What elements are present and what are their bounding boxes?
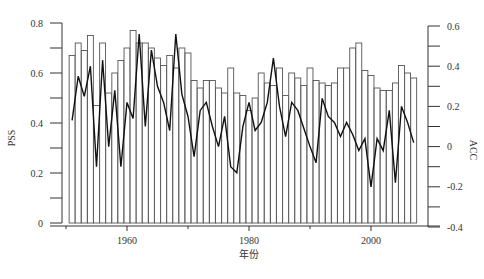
- y-axis-left-title: PSS: [6, 130, 17, 147]
- pss-bar: [295, 78, 301, 223]
- pss-bar: [209, 81, 215, 224]
- pss-bar: [301, 86, 307, 224]
- pss-bar: [368, 76, 374, 224]
- y-left-tick-label: 0.4: [31, 118, 44, 129]
- pss-bar: [124, 48, 130, 223]
- pss-bar: [258, 73, 264, 223]
- x-tick-label: 1960: [117, 235, 137, 246]
- y-right-tick-label: 0.6: [447, 21, 460, 32]
- pss-bar: [246, 111, 252, 224]
- pss-bar: [344, 68, 350, 223]
- pss-bar: [142, 43, 148, 223]
- pss-bar: [185, 53, 191, 223]
- pss-bar: [356, 43, 362, 223]
- pss-bar: [362, 71, 368, 224]
- pss-bar: [283, 96, 289, 224]
- pss-bar: [216, 88, 222, 223]
- pss-bar: [69, 56, 75, 224]
- y-right-tick-label: -0.2: [447, 181, 463, 192]
- y-right-tick-label: -0.4: [447, 222, 463, 233]
- pss-bar: [252, 98, 258, 223]
- pss-bar: [399, 66, 405, 224]
- pss-bar: [289, 73, 295, 223]
- pss-bar: [240, 96, 246, 224]
- y-axis-right-title: ACC: [468, 140, 479, 161]
- x-tick-label: 1980: [239, 235, 259, 246]
- pss-bar: [167, 56, 173, 224]
- pss-bar: [173, 68, 179, 223]
- pss-bar: [161, 66, 167, 224]
- pss-bar: [331, 83, 337, 223]
- pss-bar: [81, 51, 87, 224]
- y-left-tick-label: 0.6: [31, 68, 44, 79]
- pss-bar: [130, 31, 136, 224]
- x-axis-title: 年份: [239, 248, 259, 260]
- y-left-tick-label: 0.2: [31, 168, 44, 179]
- pss-bar: [405, 73, 411, 223]
- pss-bar: [313, 81, 319, 224]
- pss-bar: [411, 78, 417, 223]
- pss-bar: [380, 91, 386, 224]
- pss-bar: [270, 86, 276, 224]
- y-right-tick-label: 0: [447, 141, 452, 152]
- chart: 00.20.40.60.8 -0.4-0.200.20.40.6 1960198…: [0, 0, 484, 279]
- y-left-tick-label: 0.8: [31, 18, 44, 29]
- pss-bar: [222, 93, 228, 223]
- x-tick-label: 2000: [361, 235, 381, 246]
- y-left-tick-label: 0: [38, 218, 43, 229]
- y-right-tick-label: 0.2: [447, 101, 460, 112]
- pss-bar: [325, 86, 331, 224]
- y-right-tick-label: 0.4: [447, 61, 460, 72]
- x-axis: 196019802000: [50, 226, 440, 246]
- right-axis: -0.4-0.200.20.40.6: [428, 21, 463, 233]
- pss-bar: [87, 36, 93, 224]
- pss-bar: [75, 43, 81, 223]
- pss-bar: [338, 68, 344, 223]
- left-axis: 00.20.40.60.8: [31, 18, 63, 229]
